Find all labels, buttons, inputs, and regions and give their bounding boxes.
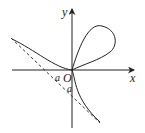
x-intercept-label: a (55, 73, 60, 83)
y-intercept-label: a (67, 84, 72, 94)
folium-diagram: y x O a a (0, 0, 145, 133)
folium-branch-left (12, 39, 72, 70)
diagram-canvas (0, 0, 145, 133)
folium-branch-lower (72, 70, 100, 122)
folium-loop (72, 26, 115, 70)
y-axis-label: y (62, 6, 67, 18)
x-axis-label: x (130, 72, 135, 84)
